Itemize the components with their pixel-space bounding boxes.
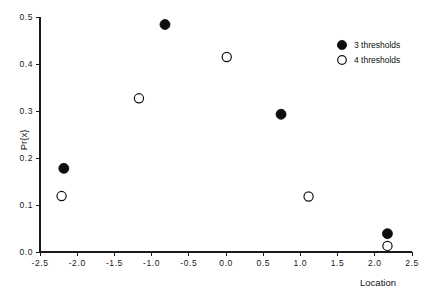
- x-axis: -2.5-2.0-1.5-1.0-0.50.00.51.01.52.02.5: [31, 252, 418, 268]
- y-tick-label: 0.0: [19, 247, 33, 257]
- x-tick-label: 2.5: [405, 258, 419, 268]
- data-point-open: [222, 52, 231, 61]
- legend-label: 3 thresholds: [354, 40, 400, 50]
- x-axis-title: Location: [360, 277, 396, 288]
- y-tick-label: 0.5: [19, 12, 33, 22]
- plot-canvas: 0.00.10.20.30.40.5 -2.5-2.0-1.5-1.0-0.50…: [0, 0, 441, 294]
- y-axis-title: Pr{x}: [18, 130, 29, 151]
- y-tick-label: 0.3: [19, 106, 33, 116]
- x-tick-label: -1.0: [143, 258, 160, 268]
- scatter-plot-figure: 0.00.10.20.30.40.5 -2.5-2.0-1.5-1.0-0.50…: [0, 0, 441, 294]
- x-tick-label: 1.5: [331, 258, 345, 268]
- data-point-filled: [276, 109, 286, 119]
- data-point-open: [57, 191, 66, 200]
- data-point-open: [134, 94, 143, 103]
- x-tick-label: -1.5: [106, 258, 123, 268]
- x-tick-label: -0.5: [180, 258, 197, 268]
- data-point-filled: [382, 229, 392, 239]
- legend-marker-open: [338, 56, 347, 65]
- data-point-filled: [160, 20, 170, 30]
- data-point-open: [304, 192, 313, 201]
- data-point-filled: [59, 163, 69, 173]
- x-tick-label: -2.5: [31, 258, 48, 268]
- data-point-open: [383, 241, 392, 250]
- legend-marker-filled: [337, 40, 346, 49]
- data-points-layer: [57, 20, 392, 251]
- x-tick-label: 0.5: [256, 258, 270, 268]
- y-tick-label: 0.2: [19, 153, 33, 163]
- x-tick-label: 2.0: [368, 258, 382, 268]
- y-tick-label: 0.4: [19, 59, 33, 69]
- y-tick-label: 0.1: [19, 200, 33, 210]
- legend-label: 4 thresholds: [354, 55, 400, 65]
- legend: 3 thresholds4 thresholds: [337, 40, 400, 65]
- x-tick-label: -2.0: [69, 258, 86, 268]
- x-tick-label: 0.0: [219, 258, 233, 268]
- x-tick-label: 1.0: [294, 258, 308, 268]
